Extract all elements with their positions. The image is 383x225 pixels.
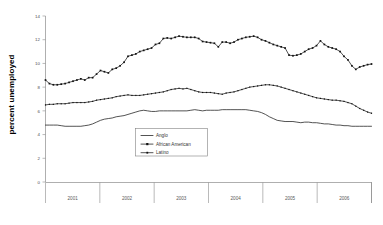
data-point-marker [339, 100, 340, 101]
data-point-marker [147, 94, 148, 95]
series-african-american [45, 35, 373, 85]
data-point-marker [76, 79, 78, 81]
data-point-marker [178, 88, 179, 89]
data-point-marker [265, 40, 267, 42]
data-point-marker [257, 36, 259, 38]
data-point-marker [257, 85, 258, 86]
data-point-marker [198, 38, 200, 40]
x-tick-label: 2005 [285, 196, 296, 201]
y-axis-title-label: percent unemployed [7, 54, 16, 134]
data-point-marker [49, 104, 50, 105]
legend-label: Anglo [156, 133, 168, 138]
data-point-marker [312, 47, 314, 49]
data-point-marker [100, 99, 101, 100]
data-point-marker [162, 38, 164, 40]
data-point-marker [108, 98, 109, 99]
series-anglo [46, 110, 372, 127]
data-point-marker [206, 41, 208, 43]
data-point-marker [107, 72, 109, 74]
y-tick-label: 4 [38, 132, 41, 137]
y-tick-label: 2 [38, 156, 41, 161]
data-point-marker [367, 64, 369, 66]
data-point-marker [171, 89, 172, 90]
data-point-marker [300, 92, 301, 93]
data-point-marker [304, 94, 305, 95]
data-point-marker [226, 92, 227, 93]
data-point-marker [92, 77, 94, 79]
data-point-marker [143, 94, 144, 95]
data-point-marker [72, 80, 74, 82]
data-point-marker [339, 51, 341, 53]
x-tick-label: 2003 [176, 196, 187, 201]
data-point-marker [331, 47, 333, 49]
data-point-marker [269, 42, 271, 44]
data-point-marker [190, 36, 192, 38]
data-point-marker [308, 95, 309, 96]
data-point-marker [218, 93, 219, 94]
data-point-marker [281, 87, 282, 88]
legend-label: Latino [156, 150, 169, 155]
y-tick-label: 12 [35, 37, 40, 42]
x-tick-label: 2006 [339, 196, 350, 201]
data-point-marker [104, 71, 106, 73]
data-point-marker [135, 95, 136, 96]
data-point-marker [72, 102, 73, 103]
data-point-marker [115, 67, 117, 69]
data-point-marker [159, 92, 160, 93]
data-point-marker [225, 41, 227, 43]
data-point-marker [190, 89, 191, 90]
data-point-marker [127, 55, 129, 57]
data-point-marker [104, 98, 105, 99]
data-point-marker [292, 90, 293, 91]
legend-marker [146, 152, 148, 154]
data-series-group [45, 35, 373, 126]
data-point-marker [284, 47, 286, 49]
data-point-marker [175, 88, 176, 89]
data-point-marker [363, 110, 364, 111]
data-point-marker [273, 85, 274, 86]
legend-marker [146, 143, 148, 145]
data-point-marker [60, 83, 62, 85]
data-point-marker [277, 85, 278, 86]
y-tick-label: 14 [35, 14, 40, 19]
data-point-marker [355, 106, 356, 107]
series-path [46, 85, 372, 113]
unemployment-line-chart: percent unemployed 02468101214 200120022… [0, 0, 383, 225]
chart-canvas: 02468101214 200120022003200420052006 Ang… [0, 0, 383, 225]
data-point-marker [53, 84, 55, 86]
data-point-marker [217, 46, 219, 48]
data-point-marker [131, 54, 133, 56]
data-point-marker [241, 89, 242, 90]
data-point-marker [206, 92, 207, 93]
data-point-marker [96, 73, 98, 75]
data-point-marker [249, 36, 251, 38]
data-point-marker [249, 87, 250, 88]
data-point-marker [159, 42, 161, 44]
data-point-marker [166, 37, 168, 39]
data-point-marker [245, 36, 247, 38]
data-point-marker [284, 88, 285, 89]
x-tick-label: 2002 [122, 196, 133, 201]
data-point-marker [84, 102, 85, 103]
data-point-marker [151, 93, 152, 94]
data-point-marker [359, 108, 360, 109]
data-point-marker [45, 104, 46, 105]
data-point-marker [88, 101, 89, 102]
data-point-marker [343, 101, 344, 102]
data-point-marker [163, 91, 164, 92]
data-point-marker [253, 86, 254, 87]
data-point-marker [371, 113, 372, 114]
y-tick-label: 8 [38, 85, 41, 90]
data-point-marker [237, 39, 239, 41]
y-tick-label: 10 [35, 61, 40, 66]
data-point-marker [367, 111, 368, 112]
data-point-marker [363, 65, 365, 67]
data-point-marker [155, 92, 156, 93]
data-point-marker [292, 55, 294, 57]
data-point-marker [300, 53, 302, 55]
y-tick-label: 6 [38, 109, 41, 114]
data-point-marker [221, 41, 223, 43]
data-point-marker [320, 40, 322, 42]
data-point-marker [57, 103, 58, 104]
data-point-marker [245, 88, 246, 89]
